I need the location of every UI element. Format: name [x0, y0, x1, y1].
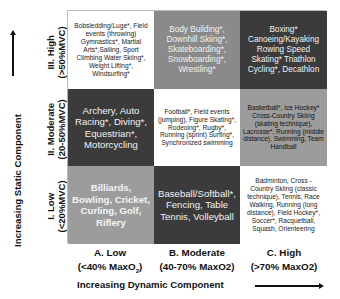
x-axis-title: Increasing Dynamic Component [77, 279, 224, 290]
column-label-high-name: C. High [240, 246, 328, 260]
cell-high-static-moderate-dynamic: Body Building*, Downhill Skiing*, Skateb… [154, 11, 240, 89]
sports-classification-grid: Bobsledding/Luge*, Field events (throwin… [67, 10, 326, 243]
column-label-high: C. High (>70% MaxO2) [240, 246, 328, 274]
column-label-high-range: (>70% MaxO2) [240, 260, 328, 274]
cell-low-static-low-dynamic: Billiards, Bowling, Cricket, Curling, Go… [68, 166, 154, 244]
row-label-low: I. Low (<20%MVC) [45, 167, 68, 245]
row-label-low-range: (<20%MVC) [56, 167, 67, 245]
row-label-high: III. High (>50%MVC) [45, 13, 68, 91]
cell-low-static-moderate-dynamic: Baseball/Softball*, Fencing, Table Tenni… [154, 166, 240, 244]
column-label-moderate-name: B. Moderate [150, 246, 244, 260]
column-label-low: A. Low (<40% MaxO2) [62, 246, 158, 276]
cell-moderate-static-low-dynamic: Archery, Auto Racing*, Diving*, Equestri… [68, 89, 154, 166]
row-label-moderate-name: II. Moderate [45, 90, 56, 168]
cell-moderate-static-high-dynamic: Basketball*, Ice Hockey* Cross-Country S… [240, 89, 327, 166]
row-label-moderate: II. Moderate (20-50%MVC) [45, 90, 68, 168]
dynamic-axis-arrow-icon [255, 285, 320, 287]
row-label-low-name: I. Low [45, 167, 56, 245]
row-label-moderate-range: (20-50%MVC) [56, 90, 67, 168]
cell-high-static-high-dynamic: Boxing* Canoeing/Kayaking Rowing Speed S… [240, 11, 327, 89]
cell-high-static-low-dynamic: Bobsledding/Luge*, Field events (throwin… [68, 11, 154, 89]
column-label-moderate: B. Moderate (40-70% MaxO2) [150, 246, 244, 274]
column-label-moderate-range: (40-70% MaxO2) [150, 260, 244, 274]
cell-moderate-static-moderate-dynamic: Football*, Field events (jumping), Figur… [154, 89, 240, 166]
column-label-low-range: (<40% MaxO2) [62, 260, 158, 276]
column-label-low-name: A. Low [62, 246, 158, 260]
cell-low-static-high-dynamic: Badminton, Cross - Country Skiing (class… [240, 166, 327, 244]
row-label-high-range: (>50%MVC) [56, 13, 67, 91]
y-axis-title: Increasing Static Component [12, 111, 23, 251]
row-label-high-name: III. High [45, 13, 56, 91]
static-axis-arrow-icon [12, 34, 14, 76]
